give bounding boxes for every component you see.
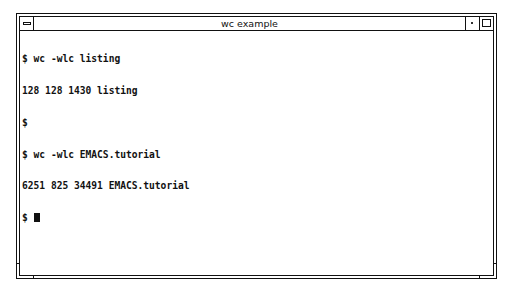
terminal-prompt-line[interactable]: $ [22,213,493,224]
title-bar[interactable]: wc example [20,17,493,31]
window-border: wc example $ wc -wlc listing 128 128 143… [19,16,494,276]
terminal-output[interactable]: $ wc -wlc listing 128 128 1430 listing $… [20,31,493,275]
minimize-icon [471,22,473,24]
minimize-button[interactable] [465,17,479,30]
resize-handle-right[interactable] [493,263,496,264]
terminal-line: $ wc -wlc EMACS.tutorial [22,150,493,161]
resize-handle-bottom-right[interactable] [479,275,480,278]
terminal-line: $ wc -wlc listing [22,54,493,65]
maximize-icon [482,19,491,27]
window-title: wc example [34,17,465,30]
terminal-window: wc example $ wc -wlc listing 128 128 143… [16,13,497,279]
terminal-line: 128 128 1430 listing [22,86,493,97]
cursor-icon [34,213,40,222]
resize-handle-bottom-left[interactable] [33,275,34,278]
window-menu-icon [23,22,31,25]
window-menu-button[interactable] [20,17,34,30]
prompt: $ [22,212,34,223]
maximize-button[interactable] [479,17,493,30]
terminal-line: 6251 825 34491 EMACS.tutorial [22,181,493,192]
terminal-line: $ [22,118,493,129]
resize-handle-left[interactable] [17,263,20,264]
